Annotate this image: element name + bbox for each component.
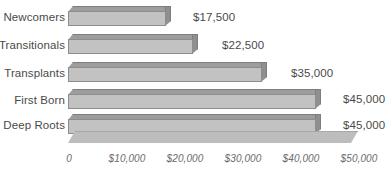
- xtick-label-20000: $20,000: [167, 153, 204, 164]
- value-label-newcomers: $17,500: [193, 11, 235, 23]
- category-label-newcomers: Newcomers: [0, 11, 65, 23]
- xtick-label-50000: $50,000: [341, 153, 378, 164]
- bar-front-face: [68, 67, 262, 82]
- chart-floor-edge: [75, 131, 358, 132]
- xtick-label-0: 0: [66, 153, 72, 164]
- value-label-transplants: $35,000: [291, 67, 333, 79]
- value-label-deep-roots: $45,000: [343, 119, 385, 131]
- bar-chart: Newcomers Transitionals Transplants Firs…: [0, 0, 392, 182]
- bar-front-face: [68, 39, 193, 54]
- bar-front-face: [68, 94, 316, 109]
- xtick-label-40000: $40,000: [283, 153, 320, 164]
- xtick-label-10000: $10,000: [109, 153, 146, 164]
- value-label-first-born: $45,000: [343, 93, 385, 105]
- category-label-deep-roots: Deep Roots: [0, 119, 65, 131]
- chart-floor-slab: [68, 131, 358, 143]
- xtick-label-30000: $30,000: [225, 153, 262, 164]
- bar-front-face: [68, 11, 166, 26]
- category-label-transitionals: Transitionals: [0, 39, 65, 51]
- category-label-transplants: Transplants: [0, 67, 65, 79]
- category-label-first-born: First Born: [0, 94, 65, 106]
- value-label-transitionals: $22,500: [222, 39, 264, 51]
